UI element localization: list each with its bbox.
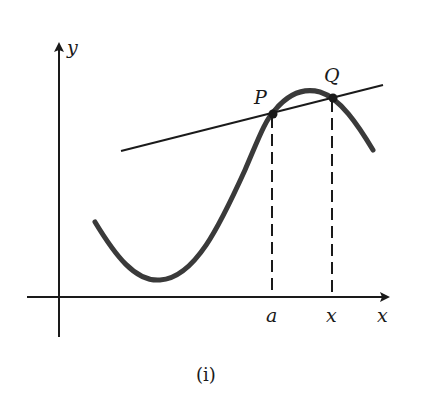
y-axis-label: y [66, 36, 78, 58]
point-p-label: P [253, 86, 268, 108]
tick-x-label: x [326, 304, 337, 326]
secant-diagram: y x P Q a x (i) [0, 0, 423, 403]
secant-line [121, 85, 383, 151]
x-axis-label: x [377, 304, 388, 326]
point-q [329, 94, 338, 103]
tick-a-label: a [266, 304, 277, 326]
point-q-label: Q [324, 64, 340, 86]
figure-caption: (i) [196, 364, 216, 385]
point-p [269, 110, 278, 119]
